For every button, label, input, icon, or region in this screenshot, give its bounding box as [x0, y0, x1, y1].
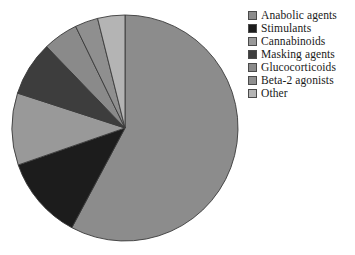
legend-label-beta-2-agonists: Beta-2 agonists [261, 74, 334, 87]
legend-item-stimulants: Stimulants [248, 22, 355, 35]
legend-swatch-icon-cannabinoids [248, 37, 257, 46]
legend-swatch-icon-beta-2-agonists [248, 76, 257, 85]
legend-swatch-icon-masking-agents [248, 50, 257, 59]
legend-label-stimulants: Stimulants [261, 22, 311, 35]
pie-chart-screenshot: Anabolic agents Stimulants Cannabinoids … [0, 0, 355, 255]
legend-swatch-icon-other [248, 89, 257, 98]
legend-item-other: Other [248, 87, 355, 100]
legend-label-anabolic-agents: Anabolic agents [261, 9, 337, 22]
legend-item-anabolic-agents: Anabolic agents [248, 9, 355, 22]
legend-label-cannabinoids: Cannabinoids [261, 35, 325, 48]
pie-chart-figure: Anabolic agents Stimulants Cannabinoids … [0, 0, 355, 255]
pie-slice-group [12, 15, 238, 241]
chart-legend: Anabolic agents Stimulants Cannabinoids … [248, 9, 355, 100]
legend-item-beta-2-agonists: Beta-2 agonists [248, 74, 355, 87]
legend-label-glucocorticoids: Glucocorticoids [261, 61, 336, 74]
legend-swatch-icon-anabolic-agents [248, 11, 257, 20]
legend-swatch-icon-stimulants [248, 24, 257, 33]
legend-item-cannabinoids: Cannabinoids [248, 35, 355, 48]
legend-item-masking-agents: Masking agents [248, 48, 355, 61]
legend-swatch-icon-glucocorticoids [248, 63, 257, 72]
legend-item-glucocorticoids: Glucocorticoids [248, 61, 355, 74]
legend-label-masking-agents: Masking agents [261, 48, 335, 61]
legend-label-other: Other [261, 87, 288, 100]
